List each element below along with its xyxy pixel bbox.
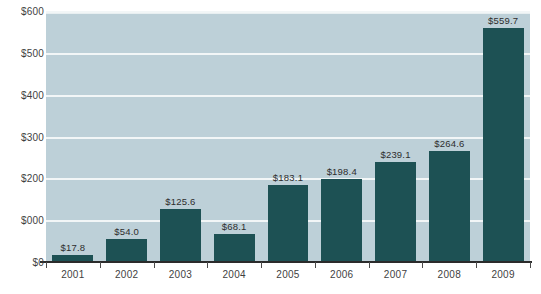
y-axis: $0$000$200$300$400$500$600 (0, 0, 44, 294)
bar[interactable] (483, 28, 524, 262)
x-axis-label: 2005 (276, 269, 299, 280)
bar[interactable] (214, 234, 255, 262)
bar-slot (261, 11, 315, 262)
x-axis-tick (207, 262, 208, 268)
bar-value-label: $198.4 (327, 166, 357, 177)
x-axis-tick (261, 262, 262, 268)
bar[interactable] (321, 179, 362, 262)
bar-value-label: $17.8 (60, 242, 85, 253)
x-axis-tick (46, 262, 47, 268)
bar-value-label: $264.6 (434, 138, 464, 149)
y-axis-label: $400 (0, 89, 44, 100)
x-axis-label: 2008 (438, 269, 461, 280)
chart-caption-cropped (0, 287, 541, 294)
x-axis-tick (100, 262, 101, 268)
bars-layer (46, 11, 530, 262)
bar[interactable] (160, 209, 201, 262)
bar-chart: $0$000$200$300$400$500$600 2001200220032… (0, 0, 541, 294)
x-axis-line (40, 261, 532, 263)
bar[interactable] (268, 185, 309, 262)
x-axis-label: 2006 (330, 269, 353, 280)
chart-title-cropped (0, 0, 541, 7)
x-axis-tick (154, 262, 155, 268)
x-axis-label: 2007 (384, 269, 407, 280)
bar-slot (422, 11, 476, 262)
x-axis-label: 2009 (491, 269, 514, 280)
bar-value-label: $183.1 (273, 172, 303, 183)
bar-value-label: $54.0 (114, 226, 139, 237)
x-axis-tick (369, 262, 370, 268)
bar-slot (476, 11, 530, 262)
x-axis-tick (530, 262, 531, 268)
x-axis-label: 2001 (61, 269, 84, 280)
y-axis-label: $200 (0, 173, 44, 184)
plot-area (46, 11, 530, 262)
bar-slot (100, 11, 154, 262)
y-axis-label: $300 (0, 131, 44, 142)
bar-slot (46, 11, 100, 262)
y-axis-label: $000 (0, 215, 44, 226)
y-axis-label: $600 (0, 6, 44, 17)
bar-slot (369, 11, 423, 262)
x-axis-tick (422, 262, 423, 268)
bar-slot (154, 11, 208, 262)
bar-value-label: $239.1 (380, 149, 410, 160)
bar-value-label: $68.1 (222, 221, 247, 232)
bar[interactable] (375, 162, 416, 262)
x-axis-label: 2002 (115, 269, 138, 280)
y-axis-label: $500 (0, 47, 44, 58)
x-axis-label: 2003 (169, 269, 192, 280)
bar-value-label: $125.6 (165, 196, 195, 207)
bar[interactable] (429, 151, 470, 262)
x-axis-tick (315, 262, 316, 268)
x-axis-tick (476, 262, 477, 268)
bar-slot (315, 11, 369, 262)
bar-value-label: $559.7 (488, 15, 518, 26)
x-axis-label: 2004 (222, 269, 245, 280)
bar[interactable] (106, 239, 147, 262)
y-axis-label: $0 (0, 257, 44, 268)
